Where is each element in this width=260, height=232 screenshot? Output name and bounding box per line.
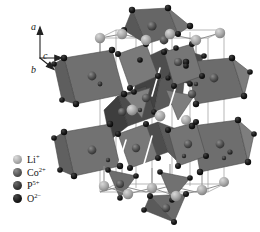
lithium-atom: [215, 28, 225, 38]
phosphorus-atom: [98, 82, 103, 87]
cobalt-atom: [162, 204, 170, 212]
oxygen-atom: [155, 73, 161, 79]
phosphorus-atom: [138, 108, 142, 112]
oxygen-atom: [105, 167, 111, 173]
phosphorus-atom: [194, 82, 198, 86]
legend-symbol-cobalt: Co: [27, 167, 39, 178]
oxygen-atom: [187, 81, 193, 87]
cobalt-atom: [184, 140, 192, 148]
lithium-atom: [147, 183, 157, 193]
oxygen-atom: [61, 129, 67, 135]
cobalt-atom: [188, 90, 196, 98]
cobalt-atom: [147, 21, 156, 30]
lithium-atom: [95, 33, 105, 43]
legend-charge-phosphorus: 5+: [33, 178, 40, 185]
oxygen-atom: [201, 53, 207, 59]
legend-charge-oxygen: 2−: [34, 191, 41, 198]
oxygen-atom: [245, 159, 251, 165]
cobalt-atom: [88, 146, 97, 155]
phosphorus-swatch-icon: [13, 181, 22, 190]
species-legend: Li+ Co2+ P5+ O2−: [13, 153, 85, 205]
lithium-atom: [99, 181, 109, 191]
oxygen-atom: [203, 153, 209, 159]
oxygen-atom: [183, 63, 189, 69]
oxygen-atom: [157, 169, 163, 175]
oxygen-atom: [133, 173, 139, 179]
phosphorus-atom: [227, 149, 232, 154]
cobalt-atom: [118, 108, 126, 116]
oxygen-atom: [197, 169, 203, 175]
lithium-swatch-icon: [13, 155, 22, 164]
oxygen-atom: [147, 193, 153, 199]
oxygen-atom: [165, 75, 170, 80]
legend-label-cobalt: Co2+: [27, 168, 46, 178]
cobalt-atom: [210, 74, 219, 83]
legend-item-oxygen: O2−: [13, 192, 85, 205]
oxygen-atom: [187, 175, 193, 181]
cobalt-atom: [142, 94, 150, 102]
cobalt-atom: [216, 140, 225, 149]
oxygen-atom: [121, 91, 127, 97]
legend-item-phosphorus: P5+: [13, 179, 85, 192]
legend-label-oxygen: O2−: [27, 194, 41, 204]
oxygen-atom: [115, 131, 121, 137]
oxygen-atom: [241, 93, 247, 99]
phosphorus-atom: [182, 154, 186, 158]
oxygen-atom: [165, 127, 171, 133]
axis-label-a: a: [31, 22, 36, 32]
oxygen-atom: [127, 165, 133, 171]
legend-charge-lithium: +: [36, 152, 40, 159]
lithium-atom: [219, 177, 229, 187]
oxygen-atom: [161, 49, 167, 55]
lithium-atom: [127, 105, 138, 116]
oxygen-swatch-icon: [13, 194, 22, 203]
lithium-atom: [197, 185, 207, 195]
lithium-atom: [155, 111, 166, 122]
oxygen-atom: [173, 45, 179, 51]
oxygen-atom: [73, 101, 79, 107]
oxygen-atom: [171, 83, 177, 89]
cobalt-atom: [116, 180, 124, 188]
oxygen-atom: [131, 89, 137, 95]
crystal-structure-figure: a c b Li+ Co2+ P5+ O2−: [0, 0, 260, 232]
oxygen-atom: [251, 131, 257, 137]
oxygen-atom: [175, 31, 181, 37]
oxygen-atom: [141, 207, 147, 213]
lithium-atom: [171, 191, 181, 201]
legend-charge-cobalt: 2+: [39, 165, 46, 172]
oxygen-atom: [235, 117, 241, 123]
lithium-atom: [181, 115, 191, 125]
legend-item-cobalt: Co2+: [13, 166, 85, 179]
phosphorus-atom: [222, 156, 226, 160]
oxygen-atom: [165, 5, 171, 11]
oxygen-atom: [171, 219, 177, 225]
legend-label-lithium: Li+: [27, 155, 40, 165]
lithium-atom: [117, 29, 127, 39]
oxygen-atom: [107, 121, 113, 127]
oxygen-atom: [199, 73, 205, 79]
oxygen-atom: [193, 101, 199, 107]
oxygen-atom: [247, 69, 253, 75]
legend-label-phosphorus: P5+: [27, 181, 39, 191]
oxygen-atom: [115, 51, 121, 57]
lithium-atom: [123, 189, 133, 199]
oxygen-atom: [117, 163, 123, 169]
oxygen-atom: [175, 163, 181, 169]
oxygen-atom: [51, 135, 57, 141]
oxygen-atom: [143, 121, 149, 127]
oxygen-atom: [187, 23, 193, 29]
cobalt-atom: [132, 144, 140, 152]
oxygen-atom: [137, 57, 143, 63]
oxygen-atom: [229, 55, 235, 61]
cobalt-swatch-icon: [13, 168, 22, 177]
oxygen-atom: [155, 155, 161, 161]
legend-item-lithium: Li+: [13, 153, 85, 166]
axis-label-c: c: [43, 51, 47, 61]
axis-label-b: b: [31, 65, 36, 75]
oxygen-atom: [109, 47, 115, 53]
lithium-atom: [141, 35, 151, 45]
phosphorus-atom: [106, 158, 110, 162]
lithium-atom: [191, 35, 201, 45]
cobalt-atom: [88, 72, 97, 81]
oxygen-atom: [117, 195, 123, 201]
